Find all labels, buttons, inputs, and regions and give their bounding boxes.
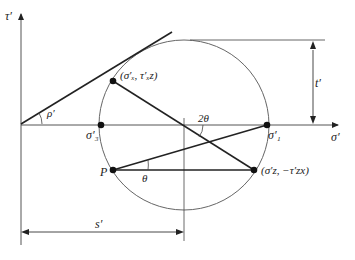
point-sigma-x xyxy=(110,78,117,85)
t-dimension-label: t′ xyxy=(315,77,321,89)
point-sigma-z xyxy=(251,167,258,174)
point-pole xyxy=(110,167,117,174)
sigma3-label: σ′₃ xyxy=(86,129,99,141)
sigma-axis-label: σ′ xyxy=(331,131,340,143)
sigma1-label: σ′₁ xyxy=(268,129,281,141)
s-dimension-label: s′ xyxy=(95,218,102,230)
rho-angle-arc xyxy=(39,113,42,124)
rho-label: ρ′ xyxy=(47,108,55,119)
point-z-label: (σ′z, −τ′zx) xyxy=(261,165,309,176)
pole-label: P xyxy=(100,166,107,178)
tau-axis-label: τ′ xyxy=(5,10,12,22)
mohr-circle-diagram xyxy=(0,0,355,260)
two-theta-label: 2θ xyxy=(198,113,209,124)
point-x-label: (σ′ₓ, τ′ₓz) xyxy=(120,70,158,81)
theta-label: θ xyxy=(142,173,147,184)
